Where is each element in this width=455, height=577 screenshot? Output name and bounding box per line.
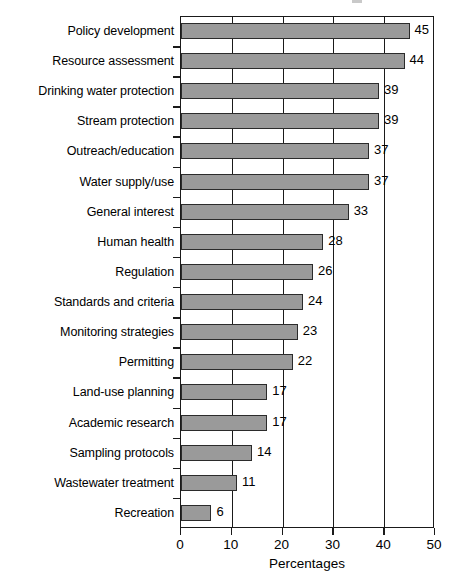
- bar-row: 17: [181, 378, 433, 408]
- bar-row: 37: [181, 168, 433, 198]
- bar-value-label: 17: [272, 413, 286, 431]
- bar-row: 39: [181, 107, 433, 137]
- bar-row: 6: [181, 499, 433, 529]
- x-axis-tick-label: 10: [223, 536, 238, 554]
- bar-value-label: 37: [374, 141, 388, 159]
- y-axis-tick: [173, 377, 180, 378]
- category-label: Land-use planning: [0, 377, 174, 407]
- bar-row: 33: [181, 198, 433, 228]
- y-axis-tick: [173, 498, 180, 499]
- bar: [181, 505, 211, 521]
- bar-value-label: 26: [318, 262, 332, 280]
- bar-value-label: 11: [242, 473, 256, 491]
- bar-row: 45: [181, 17, 433, 47]
- x-axis-tick-label: 40: [376, 536, 391, 554]
- bar: [181, 354, 293, 370]
- y-axis-tick: [173, 227, 180, 228]
- clipped-title-artifact: [352, 0, 362, 3]
- category-label: Policy development: [0, 16, 174, 46]
- bar: [181, 83, 379, 99]
- x-axis-tick: [282, 528, 283, 535]
- bar: [181, 264, 313, 280]
- x-axis-tick: [332, 528, 333, 535]
- x-axis-tick: [434, 528, 435, 535]
- y-axis-ticks: [173, 16, 180, 528]
- category-label: Stream protection: [0, 106, 174, 136]
- category-label: Water supply/use: [0, 167, 174, 197]
- x-axis-title: Percentages: [180, 555, 434, 573]
- x-axis-ticks: [180, 528, 434, 535]
- bar-value-label: 23: [303, 322, 317, 340]
- bar: [181, 384, 267, 400]
- bar-row: 17: [181, 409, 433, 439]
- bar-value-label: 39: [384, 81, 398, 99]
- bar-row: 39: [181, 77, 433, 107]
- bar-value-label: 22: [298, 352, 312, 370]
- bar: [181, 143, 369, 159]
- category-label: Wastewater treatment: [0, 468, 174, 498]
- y-axis-tick: [173, 317, 180, 318]
- bar-row: 26: [181, 258, 433, 288]
- category-label: General interest: [0, 197, 174, 227]
- bar-row: 11: [181, 469, 433, 499]
- bar-value-label: 39: [384, 111, 398, 129]
- category-label: Outreach/education: [0, 136, 174, 166]
- x-axis-tick-label: 50: [426, 536, 441, 554]
- bar-row: 23: [181, 318, 433, 348]
- bar-row: 14: [181, 439, 433, 469]
- y-axis-tick: [173, 287, 180, 288]
- bar-chart: Policy developmentResource assessmentDri…: [0, 0, 455, 577]
- y-axis-tick: [173, 197, 180, 198]
- bar: [181, 415, 267, 431]
- bar: [181, 53, 405, 69]
- y-axis-tick: [173, 468, 180, 469]
- category-label: Permitting: [0, 347, 174, 377]
- bar-value-label: 44: [410, 51, 424, 69]
- y-axis-tick: [173, 438, 180, 439]
- bar-rows: 454439393737332826242322171714116: [181, 17, 433, 527]
- category-label: Standards and criteria: [0, 287, 174, 317]
- category-label: Drinking water protection: [0, 76, 174, 106]
- bar: [181, 234, 323, 250]
- bar: [181, 324, 298, 340]
- bar-row: 37: [181, 137, 433, 167]
- bar-value-label: 28: [328, 232, 342, 250]
- bar-row: 28: [181, 228, 433, 258]
- bar: [181, 294, 303, 310]
- bar-value-label: 17: [272, 382, 286, 400]
- x-axis-tick-label: 20: [274, 536, 289, 554]
- y-axis-tick: [173, 136, 180, 137]
- y-axis-tick: [173, 347, 180, 348]
- bar-value-label: 45: [415, 21, 429, 39]
- x-axis-tick: [180, 528, 181, 535]
- x-axis-tick: [231, 528, 232, 535]
- bar-row: 22: [181, 348, 433, 378]
- bar-row: 44: [181, 47, 433, 77]
- y-axis-tick: [173, 76, 180, 77]
- bar-row: 24: [181, 288, 433, 318]
- bar-value-label: 14: [257, 443, 271, 461]
- category-label: Recreation: [0, 498, 174, 528]
- y-axis-tick: [173, 408, 180, 409]
- category-label: Monitoring strategies: [0, 317, 174, 347]
- category-label: Human health: [0, 227, 174, 257]
- category-label: Regulation: [0, 257, 174, 287]
- x-axis-tick-labels: 01020304050: [180, 536, 434, 554]
- category-label: Sampling protocols: [0, 438, 174, 468]
- x-axis-tick-label: 30: [325, 536, 340, 554]
- bar: [181, 445, 252, 461]
- bar: [181, 204, 349, 220]
- bar-value-label: 6: [216, 503, 223, 521]
- bar-value-label: 33: [354, 202, 368, 220]
- category-axis-labels: Policy developmentResource assessmentDri…: [0, 16, 174, 528]
- category-label: Resource assessment: [0, 46, 174, 76]
- bar: [181, 174, 369, 190]
- bar: [181, 113, 379, 129]
- bar: [181, 23, 410, 39]
- plot-area: 454439393737332826242322171714116: [180, 16, 434, 528]
- category-label: Academic research: [0, 408, 174, 438]
- x-axis-tick: [383, 528, 384, 535]
- x-axis-tick-label: 0: [176, 536, 184, 554]
- bar-value-label: 24: [308, 292, 322, 310]
- y-axis-tick: [173, 167, 180, 168]
